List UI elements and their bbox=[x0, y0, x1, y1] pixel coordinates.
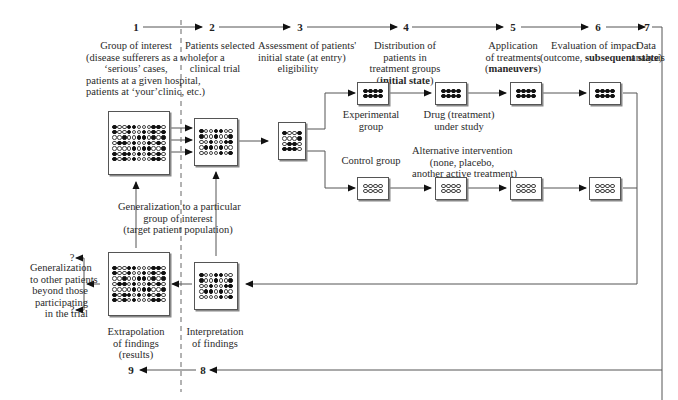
empty-dot-icon bbox=[156, 146, 160, 150]
empty-dot-icon bbox=[605, 189, 609, 193]
grid-row bbox=[112, 276, 165, 280]
empty-dot-icon bbox=[526, 184, 530, 188]
grid-row bbox=[199, 278, 233, 282]
filled-dot-icon bbox=[287, 142, 291, 146]
filled-dot-icon bbox=[117, 141, 121, 145]
filled-dot-icon bbox=[531, 89, 535, 93]
grid-row bbox=[595, 184, 614, 188]
empty-dot-icon bbox=[531, 184, 535, 188]
empty-dot-icon bbox=[368, 189, 372, 193]
empty-dot-icon bbox=[151, 282, 155, 286]
filled-dot-icon bbox=[228, 134, 232, 138]
empty-dot-icon bbox=[117, 287, 121, 291]
filled-dot-icon bbox=[199, 134, 203, 138]
filled-dot-icon bbox=[151, 271, 155, 275]
filled-dot-icon bbox=[228, 284, 232, 288]
filled-dot-icon bbox=[156, 298, 160, 302]
filled-dot-icon bbox=[199, 129, 203, 133]
empty-dot-icon bbox=[142, 125, 146, 129]
empty-dot-icon bbox=[117, 298, 121, 302]
grid-row bbox=[112, 293, 165, 297]
empty-dot-icon bbox=[521, 184, 525, 188]
empty-dot-icon bbox=[199, 140, 203, 144]
selected-grid bbox=[194, 118, 238, 166]
empty-dot-icon bbox=[112, 276, 116, 280]
filled-dot-icon bbox=[209, 145, 213, 149]
empty-dot-icon bbox=[199, 284, 203, 288]
grid-row bbox=[112, 130, 165, 134]
empty-dot-icon bbox=[521, 189, 525, 193]
empty-dot-icon bbox=[142, 298, 146, 302]
filled-dot-icon bbox=[112, 152, 116, 156]
empty-dot-icon bbox=[378, 189, 382, 193]
filled-dot-icon bbox=[282, 147, 286, 151]
empty-dot-icon bbox=[127, 135, 131, 139]
empty-dot-icon bbox=[526, 189, 530, 193]
filled-dot-icon bbox=[287, 147, 291, 151]
filled-dot-icon bbox=[363, 94, 367, 98]
empty-dot-icon bbox=[127, 298, 131, 302]
empty-dot-icon bbox=[214, 295, 218, 299]
empty-dot-icon bbox=[137, 146, 141, 150]
empty-dot-icon bbox=[228, 289, 232, 293]
grid-row bbox=[199, 289, 233, 293]
empty-dot-icon bbox=[228, 273, 232, 277]
grid-row bbox=[516, 184, 535, 188]
grid-row bbox=[112, 125, 165, 129]
filled-dot-icon bbox=[224, 284, 228, 288]
empty-dot-icon bbox=[117, 266, 121, 270]
empty-dot-icon bbox=[605, 184, 609, 188]
control-grid-7 bbox=[589, 177, 621, 200]
grid-row bbox=[516, 189, 535, 193]
empty-dot-icon bbox=[147, 125, 151, 129]
filled-dot-icon bbox=[368, 94, 372, 98]
grid-row bbox=[112, 287, 165, 291]
empty-dot-icon bbox=[161, 298, 165, 302]
empty-dot-icon bbox=[137, 282, 141, 286]
filled-dot-icon bbox=[161, 287, 165, 291]
step-number-7: 7 bbox=[640, 21, 654, 33]
experimental-grid-6 bbox=[510, 82, 542, 105]
empty-dot-icon bbox=[132, 271, 136, 275]
empty-dot-icon bbox=[132, 135, 136, 139]
empty-dot-icon bbox=[224, 289, 228, 293]
empty-dot-icon bbox=[516, 184, 520, 188]
filled-dot-icon bbox=[151, 157, 155, 161]
grid-row bbox=[363, 184, 382, 188]
empty-dot-icon bbox=[142, 266, 146, 270]
filled-dot-icon bbox=[156, 152, 160, 156]
filled-dot-icon bbox=[199, 273, 203, 277]
empty-dot-icon bbox=[122, 130, 126, 134]
filled-dot-icon bbox=[137, 152, 141, 156]
empty-dot-icon bbox=[117, 135, 121, 139]
filled-dot-icon bbox=[451, 94, 455, 98]
filled-dot-icon bbox=[156, 125, 160, 129]
empty-dot-icon bbox=[228, 145, 232, 149]
filled-dot-icon bbox=[595, 89, 599, 93]
filled-dot-icon bbox=[112, 130, 116, 134]
empty-dot-icon bbox=[137, 125, 141, 129]
clinical-trial-flow-diagram: 1 2 3 4 5 6 7 8 9 Group of interest(dise… bbox=[0, 0, 678, 400]
empty-dot-icon bbox=[199, 151, 203, 155]
empty-dot-icon bbox=[209, 273, 213, 277]
step-number-4: 4 bbox=[399, 21, 413, 33]
empty-dot-icon bbox=[610, 184, 614, 188]
filled-dot-icon bbox=[122, 141, 126, 145]
empty-dot-icon bbox=[209, 134, 213, 138]
empty-dot-icon bbox=[214, 284, 218, 288]
filled-dot-icon bbox=[142, 135, 146, 139]
filled-dot-icon bbox=[122, 282, 126, 286]
empty-dot-icon bbox=[127, 157, 131, 161]
empty-dot-icon bbox=[117, 293, 121, 297]
empty-dot-icon bbox=[142, 141, 146, 145]
step-8-label: Interpretationof findings bbox=[185, 326, 245, 349]
step-number-8: 8 bbox=[196, 364, 210, 376]
filled-dot-icon bbox=[151, 266, 155, 270]
empty-dot-icon bbox=[204, 295, 208, 299]
step-number-2: 2 bbox=[205, 21, 219, 33]
grid-row bbox=[199, 134, 233, 138]
empty-dot-icon bbox=[142, 293, 146, 297]
empty-dot-icon bbox=[531, 189, 535, 193]
filled-dot-icon bbox=[132, 146, 136, 150]
filled-dot-icon bbox=[199, 278, 203, 282]
